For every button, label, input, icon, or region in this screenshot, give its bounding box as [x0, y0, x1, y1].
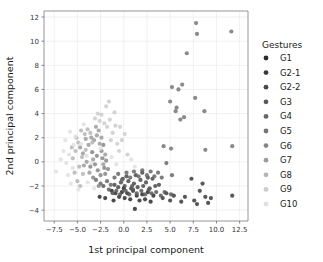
data-point — [73, 134, 77, 138]
x-tick-label: 7.5 — [188, 226, 199, 234]
data-point — [93, 162, 97, 166]
y-tick-label: 2 — [35, 134, 39, 142]
y-tick-label: −4 — [29, 207, 40, 215]
data-point — [179, 200, 183, 204]
data-point — [110, 155, 114, 159]
data-point — [162, 190, 166, 194]
data-point — [137, 198, 141, 202]
data-point — [85, 127, 89, 131]
data-point — [135, 191, 139, 195]
data-point — [112, 183, 116, 187]
data-point — [133, 165, 137, 169]
data-point — [96, 168, 100, 172]
data-point — [84, 148, 88, 152]
data-point — [98, 119, 102, 123]
legend-title: Gestures — [262, 40, 302, 50]
legend-label: G3 — [280, 97, 292, 107]
data-point — [101, 162, 105, 166]
data-point — [230, 194, 234, 198]
data-point — [149, 191, 153, 195]
data-point — [178, 118, 182, 122]
data-point — [116, 172, 120, 176]
pca-scatter-plot: −7.5−5.0−2.50.02.55.07.510.012.5 −4−2024… — [0, 0, 323, 262]
data-point — [164, 161, 168, 165]
x-tick-label: 12.5 — [232, 226, 248, 234]
data-point — [124, 174, 128, 178]
x-tick-label: 5.0 — [165, 226, 176, 234]
data-point — [193, 96, 197, 100]
data-point — [112, 175, 116, 179]
data-point — [159, 194, 163, 198]
y-tick-label: 12 — [30, 14, 39, 22]
data-point — [149, 169, 153, 173]
data-point — [147, 188, 151, 192]
data-point — [95, 133, 99, 137]
y-tick-label: −2 — [29, 183, 39, 191]
legend-label: G9 — [280, 184, 292, 194]
data-point — [112, 110, 116, 114]
data-point — [202, 109, 206, 113]
legend-marker — [264, 56, 269, 61]
data-point — [100, 156, 104, 160]
data-point — [84, 137, 88, 141]
data-point — [125, 153, 129, 157]
legend-marker — [264, 143, 269, 148]
data-point — [61, 149, 65, 153]
data-point — [76, 188, 80, 192]
data-point — [78, 184, 82, 188]
data-point — [82, 122, 86, 126]
data-point — [79, 142, 83, 146]
legend-label: G6 — [280, 141, 292, 151]
data-point — [123, 184, 127, 188]
data-point — [68, 130, 72, 134]
data-point — [75, 179, 79, 183]
data-point — [157, 183, 161, 187]
y-axis-title: 2nd principal component — [4, 56, 15, 175]
data-point — [81, 151, 85, 155]
data-point — [180, 83, 184, 87]
data-point — [94, 125, 98, 129]
legend-marker — [264, 202, 269, 207]
data-point — [86, 143, 90, 147]
data-point — [143, 192, 147, 196]
data-point — [111, 198, 115, 202]
data-point — [126, 179, 130, 183]
data-point — [88, 165, 92, 169]
data-point — [104, 104, 108, 108]
data-point — [194, 21, 198, 25]
data-point — [116, 185, 120, 189]
data-point — [89, 161, 93, 165]
x-axis-title: 1st principal component — [88, 244, 204, 255]
legend-label: G8 — [280, 170, 292, 180]
data-point — [118, 192, 122, 196]
data-point — [97, 184, 101, 188]
data-point — [85, 154, 89, 158]
legend-marker — [264, 172, 269, 177]
data-point — [128, 175, 132, 179]
data-point — [209, 196, 213, 200]
data-point — [83, 132, 87, 136]
data-point — [72, 143, 76, 147]
legend-label: G7 — [280, 155, 292, 165]
data-point — [152, 174, 156, 178]
data-point — [169, 192, 173, 196]
data-point — [114, 162, 118, 166]
data-point — [169, 146, 173, 150]
data-point — [111, 191, 115, 195]
data-point — [195, 202, 199, 206]
data-point — [101, 143, 105, 147]
data-point — [139, 189, 143, 193]
data-point — [132, 169, 136, 173]
data-point — [98, 195, 102, 199]
data-point — [59, 157, 63, 161]
data-point — [149, 200, 153, 204]
data-point — [183, 195, 187, 199]
data-point — [64, 161, 68, 165]
data-point — [87, 171, 91, 175]
data-point — [91, 157, 95, 161]
data-point — [97, 128, 101, 132]
data-point — [77, 165, 81, 169]
data-point — [54, 169, 58, 173]
data-point — [98, 142, 102, 146]
data-point — [91, 175, 95, 179]
